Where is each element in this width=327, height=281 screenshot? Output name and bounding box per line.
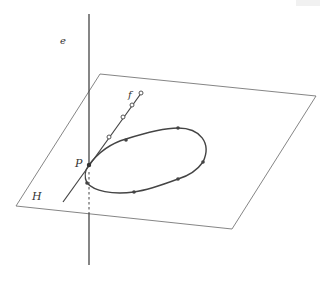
ellipse-points [85, 126, 205, 194]
label-p: P [74, 157, 83, 170]
label-f: f [127, 89, 134, 100]
label-e: e [60, 35, 66, 46]
ellipse-point [85, 181, 89, 185]
ellipse-curve [85, 128, 206, 193]
ellipse-point [132, 190, 136, 194]
point-p [87, 163, 91, 167]
open-point [139, 91, 143, 95]
label-h: H [31, 190, 42, 203]
open-point [130, 103, 134, 107]
ellipse-point [176, 177, 180, 181]
ellipse-point [176, 126, 180, 130]
diagram-canvas: e f P H [0, 0, 327, 281]
open-point [107, 135, 111, 139]
line-f [63, 92, 142, 202]
ellipse-point [201, 160, 205, 164]
open-point [121, 115, 125, 119]
plane-h [16, 74, 316, 229]
ellipse-point [124, 138, 128, 142]
